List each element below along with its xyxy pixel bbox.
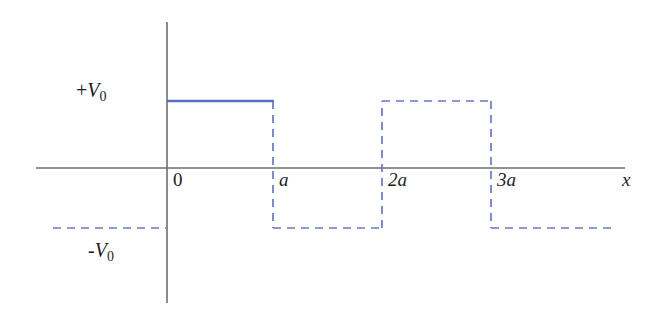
label-plus-v0: +V0 bbox=[76, 80, 107, 104]
x-axis-label: x bbox=[622, 170, 630, 189]
x-tick-label-a: a bbox=[279, 170, 289, 189]
potential-step-figure bbox=[0, 0, 663, 313]
figure-background bbox=[0, 0, 663, 313]
x-tick-label-0: 0 bbox=[173, 170, 183, 189]
x-tick-label-2a: 2a bbox=[388, 170, 407, 189]
x-tick-label-3a: 3a bbox=[497, 170, 516, 189]
label-minus-v0: -V0 bbox=[88, 240, 114, 264]
